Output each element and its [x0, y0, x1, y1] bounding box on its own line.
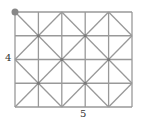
diagonal-line [85, 60, 108, 84]
vertex-dot [60, 58, 63, 61]
width-label: 5 [80, 108, 86, 119]
diagonal-line [38, 12, 61, 36]
vertex-dot [84, 82, 87, 85]
diagonal-line [85, 12, 108, 36]
diagonal-line [15, 83, 38, 107]
diagonal-line [85, 36, 108, 60]
diagonal-line [15, 60, 38, 84]
height-label: 4 [5, 52, 11, 63]
diagonal-line [62, 12, 85, 36]
vertex-dot [37, 34, 40, 37]
diagonal-line [15, 12, 38, 36]
diagonal-line [62, 36, 85, 60]
diagonal-line [109, 60, 132, 84]
start-marker-dot [12, 9, 19, 16]
diagonal-line [109, 36, 132, 60]
diagonal-line [38, 36, 61, 60]
grid-diagram [0, 0, 141, 120]
vertex-dot [84, 34, 87, 37]
diagonal-line [85, 83, 108, 107]
diagonal-line [62, 83, 85, 107]
vertex-dot [107, 58, 110, 61]
diagonal-line [38, 83, 61, 107]
diagonal-line [62, 60, 85, 84]
vertex-dot [37, 82, 40, 85]
diagonal-line [109, 83, 132, 107]
diagonal-line [38, 60, 61, 84]
diagonal-line [109, 12, 132, 36]
diagonal-line [15, 36, 38, 60]
